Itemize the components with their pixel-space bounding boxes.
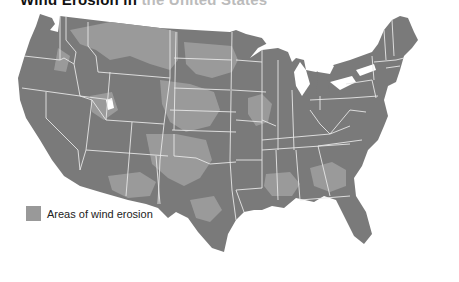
legend-label: Areas of wind erosion <box>47 208 153 220</box>
map-legend: Areas of wind erosion <box>26 206 153 221</box>
legend-swatch-wind-erosion <box>26 206 41 221</box>
us-map <box>0 0 459 282</box>
